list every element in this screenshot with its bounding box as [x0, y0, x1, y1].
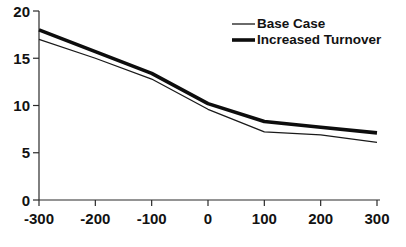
legend-label: Increased Turnover [257, 32, 382, 47]
legend-label: Base Case [257, 16, 326, 31]
x-tick-label: 0 [204, 210, 212, 227]
y-tick-label: 10 [13, 97, 30, 114]
line-chart: 05101520 -300-200-1000100200300 Base Cas… [0, 0, 406, 247]
x-tick-label: -200 [80, 210, 110, 227]
x-tick-label: 200 [308, 210, 333, 227]
y-tick-label: 20 [13, 3, 30, 20]
x-tick-label: -300 [24, 210, 54, 227]
chart-canvas: 05101520 -300-200-1000100200300 Base Cas… [0, 0, 406, 247]
y-tick-label: 5 [22, 144, 30, 161]
x-tick-label: 100 [252, 210, 277, 227]
y-tick-label: 15 [13, 50, 30, 67]
y-tick-label: 0 [22, 192, 30, 209]
x-tick-label: -100 [137, 210, 167, 227]
x-tick-label: 300 [364, 210, 389, 227]
